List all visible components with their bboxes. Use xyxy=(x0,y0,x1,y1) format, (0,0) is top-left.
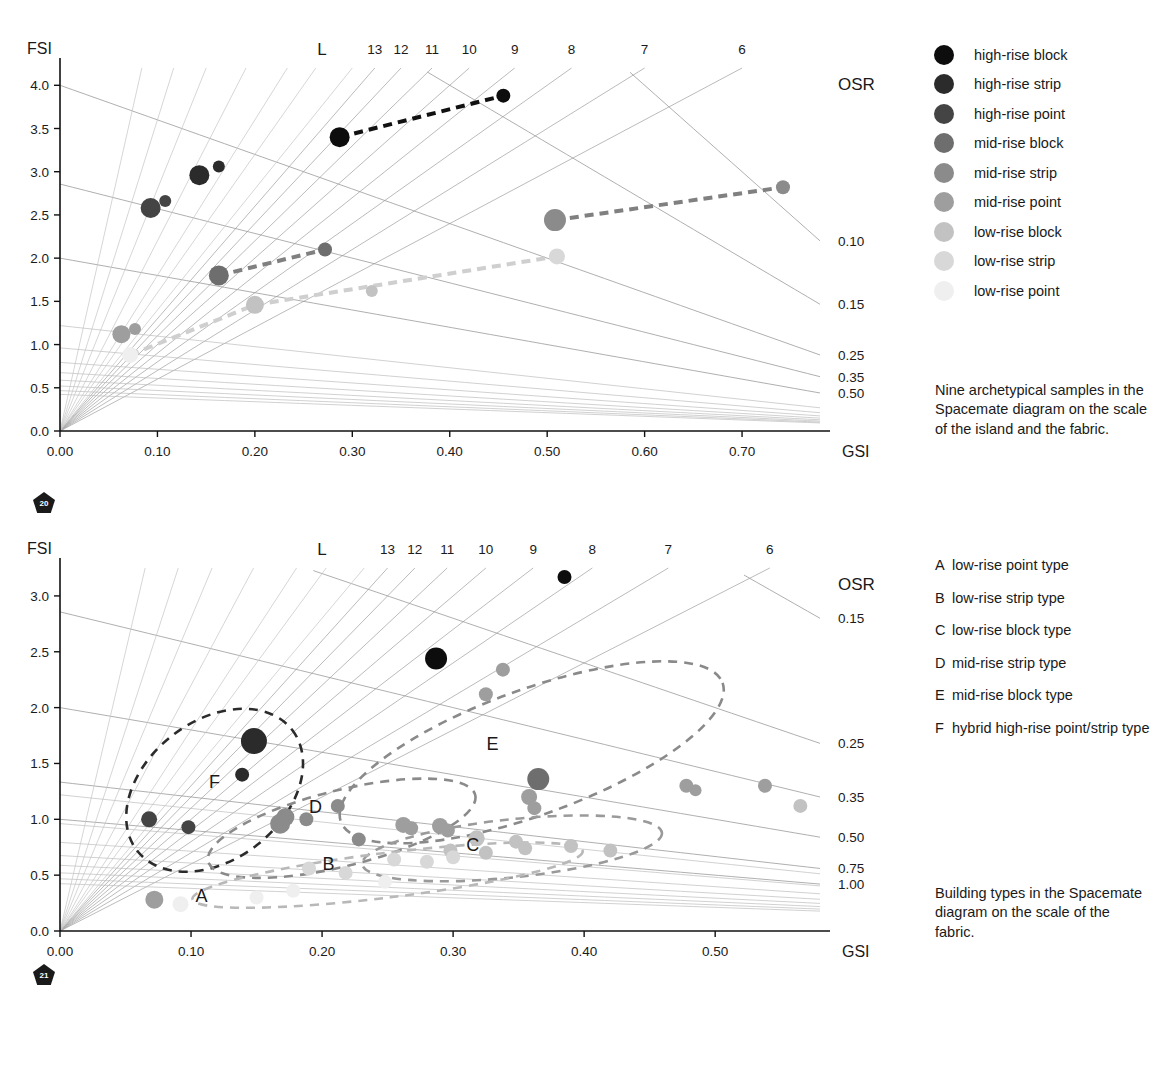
grid-lines xyxy=(60,568,820,931)
OSR-curve-0.50 xyxy=(60,708,820,838)
building-type-text: low-rise block type xyxy=(952,621,1155,640)
OSR-curve-0.50 xyxy=(60,258,820,393)
y-tick-label: 2.0 xyxy=(30,251,49,266)
OSR-curve-0.10 xyxy=(630,72,820,241)
building-type-key: A xyxy=(935,556,952,575)
x-axis-title: GSI xyxy=(842,943,870,960)
data-point-mid-rise-block xyxy=(527,768,549,790)
L-tick-label: 7 xyxy=(641,42,649,57)
L-tick-label: 13 xyxy=(367,42,382,57)
cluster-label-E: E xyxy=(486,734,498,754)
x-tick-label: 0.20 xyxy=(242,444,268,459)
grid-lines xyxy=(60,68,820,431)
legend-item-high-rise-strip: high-rise strip xyxy=(934,70,1154,100)
legend-item-label: low-rise point xyxy=(974,284,1059,299)
legend-item-label: high-rise strip xyxy=(974,77,1061,92)
data-point-low-rise-strip xyxy=(420,855,434,869)
sample-connector xyxy=(340,96,504,137)
L-ray-13 xyxy=(60,568,388,931)
data-point-low-rise-block xyxy=(564,839,578,853)
building-type-key: C xyxy=(935,621,952,640)
data-point-mid-rise-strip xyxy=(352,832,366,846)
data-point-low-rise-strip xyxy=(302,861,316,875)
L-helper-ray xyxy=(60,68,352,431)
y-tick-label: 0.5 xyxy=(30,868,49,883)
building-type-text: mid-rise block type xyxy=(952,686,1155,705)
x-tick-label: 0.40 xyxy=(571,944,597,959)
data-point-low-rise-block xyxy=(366,285,378,297)
spacemate-island-svg: 1312111098760.100.150.250.350.504.03.53.… xyxy=(0,0,915,500)
L-helper-ray xyxy=(60,568,178,931)
x-tick-label: 0.50 xyxy=(702,944,728,959)
legend-item-label: low-rise strip xyxy=(974,254,1055,269)
OSR-tick-label: 0.15 xyxy=(838,297,864,312)
data-point-low-rise-block xyxy=(479,846,493,860)
y-tick-label: 2.0 xyxy=(30,701,49,716)
data-point-mid-rise-point xyxy=(758,779,772,793)
data-point-mid-rise-strip xyxy=(331,799,345,813)
building-type-text: low-rise strip type xyxy=(952,589,1155,608)
L-tick-label: 8 xyxy=(589,542,597,557)
building-type-row-D: Dmid-rise strip type xyxy=(935,654,1155,673)
y-tick-label: 1.0 xyxy=(30,812,49,827)
cluster-label-C: C xyxy=(466,835,479,855)
OSR-tick-label: 0.50 xyxy=(838,386,864,401)
L-ray-6 xyxy=(60,568,770,931)
L-tick-label: 8 xyxy=(568,42,576,57)
y-tick-label: 4.0 xyxy=(30,78,49,93)
x-tick-label: 0.40 xyxy=(437,444,463,459)
OSR-curve-0.25 xyxy=(60,85,820,355)
legend-item-high-rise-block: high-rise block xyxy=(934,40,1154,70)
data-point-high-rise-point xyxy=(141,811,157,827)
data-point-high-rise-strip xyxy=(241,728,267,754)
OSR-tick-label: 0.25 xyxy=(838,736,864,751)
legend-item-label: mid-rise strip xyxy=(974,166,1057,181)
cluster-ellipse-E xyxy=(319,624,743,880)
spacemate-island-figure: 1312111098760.100.150.250.350.504.03.53.… xyxy=(0,0,915,500)
data-point-low-rise-block xyxy=(246,296,264,314)
x-tick-label: 0.00 xyxy=(47,944,73,959)
L-ray-11 xyxy=(60,68,432,431)
L-tick-label: 9 xyxy=(511,42,519,57)
data-point-mid-rise-strip xyxy=(270,814,290,834)
data-point-high-rise-point xyxy=(159,195,171,207)
legend-item-low-rise-strip: low-rise strip xyxy=(934,247,1154,277)
OSR-curve-0.25 xyxy=(313,571,820,744)
data-point-mid-rise-point xyxy=(129,323,141,335)
OSR-tick-label: 1.00 xyxy=(838,877,864,892)
L-tick-label: 11 xyxy=(440,542,454,557)
L-helper-ray xyxy=(60,68,316,431)
x-tick-label: 0.30 xyxy=(440,944,466,959)
data-point-low-rise-point xyxy=(122,347,138,363)
data-point-high-rise-block xyxy=(425,647,447,669)
data-point-mid-rise-point xyxy=(404,821,418,835)
data-point-low-rise-point xyxy=(250,890,264,904)
y-axis-title: FSI xyxy=(27,540,52,557)
building-type-row-E: Emid-rise block type xyxy=(935,686,1155,705)
legend-swatch-icon xyxy=(934,45,954,65)
L-helper-ray xyxy=(60,68,246,431)
building-type-key: F xyxy=(935,719,952,738)
L-tick-label: 12 xyxy=(407,542,422,557)
data-points xyxy=(141,570,807,912)
legend: high-rise blockhigh-rise striphigh-rise … xyxy=(934,40,1154,306)
L-tick-label: 6 xyxy=(766,542,774,557)
cluster-label-F: F xyxy=(209,772,220,792)
x-tick-label: 0.70 xyxy=(729,444,755,459)
OSR-curve-0.15 xyxy=(744,575,820,618)
data-point-high-rise-block xyxy=(330,127,350,147)
data-point-mid-rise-point xyxy=(145,891,163,909)
y-tick-label: 0.0 xyxy=(30,924,49,939)
OSR-helper-curve xyxy=(60,362,820,416)
L-helper-ray xyxy=(60,68,287,431)
building-type-row-C: Clow-rise block type xyxy=(935,621,1155,640)
x-tick-label: 0.00 xyxy=(47,444,73,459)
data-point-high-rise-strip xyxy=(235,768,249,782)
data-point-mid-rise-block xyxy=(318,243,332,257)
data-point-high-rise-block xyxy=(557,570,571,584)
L-tick-label: 10 xyxy=(478,542,493,557)
x-tick-label: 0.30 xyxy=(339,444,365,459)
data-point-low-rise-strip xyxy=(387,853,401,867)
y-tick-label: 0.0 xyxy=(30,424,49,439)
cluster-label-A: A xyxy=(196,886,208,906)
